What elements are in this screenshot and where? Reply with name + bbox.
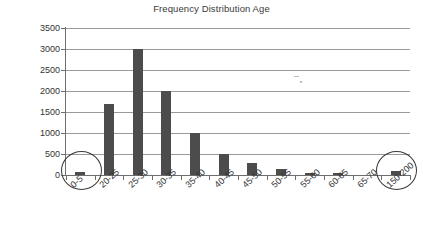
x-tick-0 <box>66 175 67 180</box>
y-tick-label-2500: 2500 <box>4 66 60 75</box>
bar-30-35 <box>161 91 171 175</box>
y-tick-2000 <box>61 91 66 92</box>
x-tick-11 <box>381 175 382 180</box>
chart-title: Frequency Distribution Age <box>0 3 423 14</box>
x-tick-10 <box>353 175 354 180</box>
y-tick-1000 <box>61 133 66 134</box>
x-tick-7 <box>267 175 268 180</box>
gridline-3500 <box>66 28 410 29</box>
scan-speck-1 <box>294 76 299 77</box>
y-tick-label-3500: 3500 <box>4 24 60 33</box>
x-tick-6 <box>238 175 239 180</box>
x-tick-8 <box>295 175 296 180</box>
y-tick-label-2000: 2000 <box>4 87 60 96</box>
y-tick-label-1500: 1500 <box>4 108 60 117</box>
y-axis-tick-labels: 0500100015002000250030003500 <box>0 0 60 225</box>
bar-20-25 <box>104 104 114 175</box>
y-tick-label-1000: 1000 <box>4 129 60 138</box>
bar-25-30 <box>133 49 143 175</box>
gridline-1000 <box>66 133 410 134</box>
gridline-3000 <box>66 49 410 50</box>
x-tick-2 <box>123 175 124 180</box>
x-tick-9 <box>324 175 325 180</box>
y-tick-3000 <box>61 49 66 50</box>
plot-area <box>66 28 410 175</box>
y-tick-2500 <box>61 70 66 71</box>
y-tick-1500 <box>61 112 66 113</box>
y-tick-label-500: 500 <box>4 150 60 159</box>
y-tick-500 <box>61 154 66 155</box>
x-tick-label-0-5: 0-5 <box>69 174 85 189</box>
scan-speck-2 <box>300 81 302 83</box>
gridline-2000 <box>66 91 410 92</box>
x-tick-4 <box>181 175 182 180</box>
gridline-500 <box>66 154 410 155</box>
y-tick-label-3000: 3000 <box>4 45 60 54</box>
x-tick-12 <box>410 175 411 180</box>
x-tick-3 <box>152 175 153 180</box>
x-tick-1 <box>95 175 96 180</box>
gridline-1500 <box>66 112 410 113</box>
y-tick-3500 <box>61 28 66 29</box>
x-tick-5 <box>209 175 210 180</box>
gridline-2500 <box>66 70 410 71</box>
frequency-distribution-chart: Frequency Distribution Age 0500100015002… <box>0 0 423 225</box>
y-tick-label-0: 0 <box>4 171 60 180</box>
